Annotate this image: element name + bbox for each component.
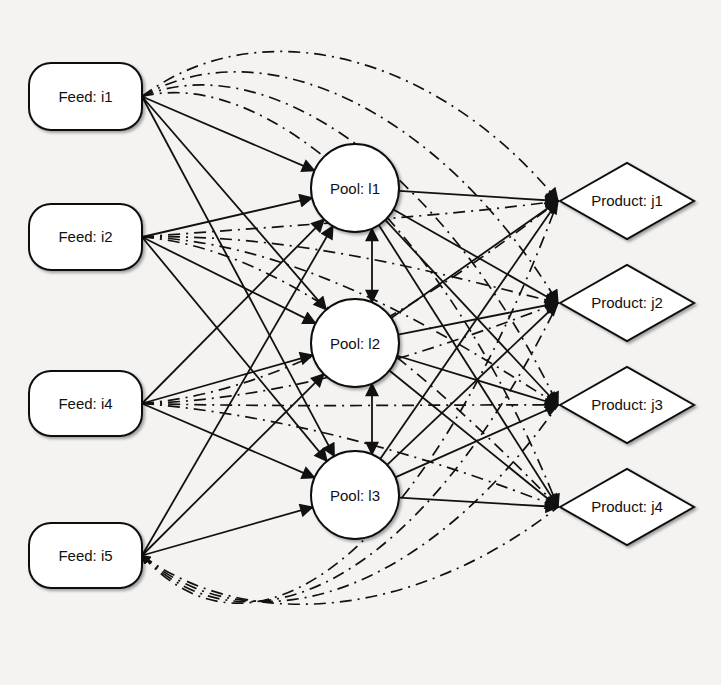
edge-feed-i2-to-pool-l2 [142,237,316,323]
edge-bypass-feed-i4-to-product-j3 [142,404,558,406]
edge-bypass-feed-i5-to-product-j1 [142,201,558,603]
edge-pool-l3-to-product-j2 [387,303,558,465]
product-node-j3[interactable]: Product: j3 [560,367,694,443]
feed-node-label: Feed: i4 [58,395,112,412]
pool-node-l2[interactable]: Pool: l2 [311,299,399,387]
pool-node-label: Pool: l2 [330,335,380,352]
edge-feed-i5-to-pool-l3 [142,507,313,555]
pool-node-label: Pool: l1 [330,180,380,197]
feed-node-label: Feed: i1 [58,88,112,105]
product-nodes: Product: j1Product: j2Product: j3Product… [560,163,694,545]
edge-pool-l3-to-product-j4 [399,498,558,507]
pool-node-l1[interactable]: Pool: l1 [311,144,399,232]
product-node-label: Product: j3 [591,396,663,413]
edge-pool-l3-to-product-j3 [395,405,558,477]
edge-feed-i5-to-pool-l2 [142,374,324,555]
product-node-label: Product: j1 [591,192,663,209]
product-node-label: Product: j2 [591,294,663,311]
edge-pool-l2-to-product-j2 [398,303,558,335]
product-node-j2[interactable]: Product: j2 [560,265,694,341]
feed-node-label: Feed: i5 [58,547,112,564]
pool-node-label: Pool: l3 [330,487,380,504]
feed-nodes: Feed: i1Feed: i2Feed: i4Feed: i5 [29,63,142,588]
product-node-j4[interactable]: Product: j4 [560,469,694,545]
pool-node-l3[interactable]: Pool: l3 [311,451,399,539]
product-node-j1[interactable]: Product: j1 [560,163,694,239]
edge-pool-l2-to-product-j1 [391,201,558,318]
feed-node-i2[interactable]: Feed: i2 [29,204,142,270]
edge-feed-i4-to-pool-l1 [142,219,324,403]
pool-nodes: Pool: l1Pool: l2Pool: l3 [311,144,399,539]
feed-node-i4[interactable]: Feed: i4 [29,371,142,436]
edge-pool-l1-to-product-j1 [399,191,558,201]
edge-feed-i1-to-pool-l1 [142,97,315,171]
edge-pool-l1-to-product-j3 [385,220,558,405]
pooling-network-diagram: Feed: i1Feed: i2Feed: i4Feed: i5 Pool: l… [0,0,721,685]
feed-node-label: Feed: i2 [58,228,112,245]
edge-feed-i1-to-pool-l2 [142,97,326,310]
feed-node-i1[interactable]: Feed: i1 [29,63,142,130]
product-node-label: Product: j4 [591,498,663,515]
feed-node-i5[interactable]: Feed: i5 [29,523,142,588]
